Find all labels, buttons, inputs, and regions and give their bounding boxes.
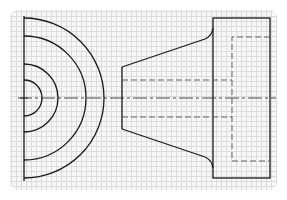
- technical-drawing: [0, 0, 287, 200]
- hidden-lines: [122, 37, 270, 161]
- cone-lower-taper: [122, 129, 213, 168]
- end-view: [20, 16, 104, 181]
- cone-upper-taper: [122, 28, 213, 67]
- hidden-pocket: [232, 37, 270, 161]
